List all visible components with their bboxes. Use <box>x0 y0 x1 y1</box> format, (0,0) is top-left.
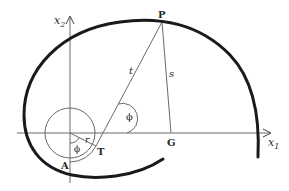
involute-curve <box>24 20 258 177</box>
point-A-label: A <box>60 160 69 171</box>
point-T-label: T <box>97 146 105 157</box>
point-G-label: G <box>167 137 176 148</box>
coordinate-axes <box>17 16 271 183</box>
x2-axis-label: x2 <box>54 14 65 29</box>
angle-arc-origin <box>70 138 79 143</box>
segment-t-label: t <box>129 65 134 76</box>
angle-phi-at-T-label: ϕ <box>126 111 133 122</box>
segment-r-label: r <box>85 135 90 145</box>
tangent-t <box>96 22 162 146</box>
angle-phi-origin-label: ϕ <box>74 144 80 154</box>
involute-diagram: x2 x1 P G T A t s r ϕ ϕ <box>0 0 289 191</box>
segment-s-label: s <box>169 68 174 79</box>
x1-axis-label: x1 <box>268 136 279 151</box>
point-P-label: P <box>158 9 166 20</box>
